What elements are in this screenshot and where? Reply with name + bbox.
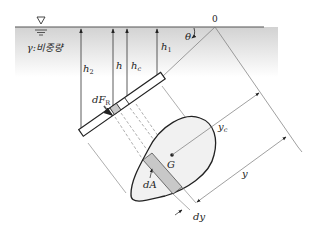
centroid-label: G bbox=[167, 159, 175, 170]
fluid-label: γ:비중량 bbox=[27, 42, 65, 53]
origin-label: 0 bbox=[212, 14, 218, 24]
diagram-canvas: γ:비중량 0 θ h2 h hc h1 dFR G dA bbox=[0, 0, 309, 233]
dA-label: dA bbox=[143, 179, 157, 190]
yc-label: yc bbox=[217, 121, 228, 134]
angle-label: θ bbox=[185, 31, 191, 42]
dy-arrow bbox=[175, 210, 182, 215]
h-label: h bbox=[116, 60, 122, 71]
inclined-plane-diagram: γ:비중량 0 θ h2 h hc h1 dFR G dA bbox=[0, 0, 309, 233]
dy-label: dy bbox=[193, 211, 205, 222]
y-label: y bbox=[241, 168, 248, 179]
dFR-label: dFR bbox=[92, 94, 111, 107]
